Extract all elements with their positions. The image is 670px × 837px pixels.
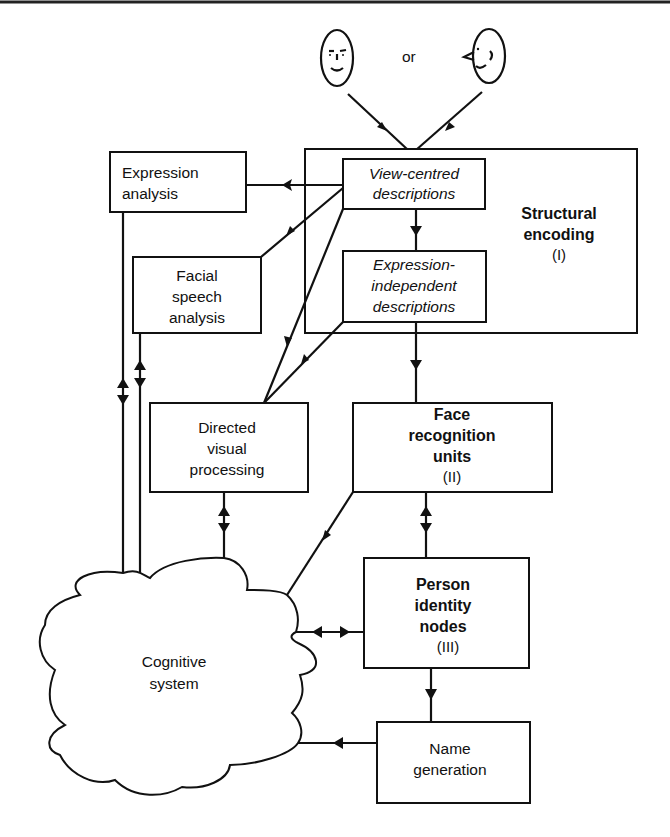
fru-line-1: Face: [434, 406, 471, 423]
pin-numeral: (III): [437, 638, 460, 655]
fru-line-2: recognition: [408, 427, 495, 444]
expression-independent-line-3: descriptions: [373, 298, 456, 315]
name-generation-box: Name generation: [377, 722, 530, 803]
person-identity-nodes-box: Person identity nodes (III): [364, 558, 529, 668]
view-centred-line-1: View-centred: [369, 165, 461, 182]
arrow-name-generation-to-cognitive: [298, 737, 377, 749]
arrow-pin-to-name-generation: [425, 668, 437, 722]
structural-encoding-title-1: Structural: [521, 205, 597, 222]
arrow-exprindep-to-fru: [410, 322, 422, 403]
arrow-fru-to-cognitive: [287, 492, 353, 595]
pin-line-1: Person: [416, 576, 470, 593]
expression-independent-descriptions-box: Expression- independent descriptions: [343, 251, 486, 322]
input-arrows: [348, 92, 482, 150]
facial-speech-analysis-box: Facial speech analysis: [133, 257, 261, 333]
arrow-fru-to-pin: [420, 492, 432, 558]
structural-encoding-numeral: (I): [552, 246, 566, 263]
cognitive-system-cloud: Cognitive system: [40, 558, 316, 795]
face-recognition-model-diagram: or Structural encoding (I) View-centred …: [0, 0, 670, 837]
directed-visual-line-3: processing: [190, 461, 265, 478]
directed-visual-processing-box: Directed visual processing: [150, 403, 308, 492]
cognitive-system-line-2: system: [149, 675, 198, 692]
structural-encoding-title-2: encoding: [523, 226, 594, 243]
frontal-face-icon: [321, 30, 353, 86]
view-centred-line-2: descriptions: [373, 185, 456, 202]
arrow-pin-to-cognitive: [296, 626, 364, 638]
facial-speech-line-1: Facial: [176, 267, 217, 284]
expression-independent-line-1: Expression-: [373, 256, 455, 273]
pin-line-3: nodes: [419, 618, 466, 635]
name-generation-line-2: generation: [413, 761, 486, 778]
profile-face-icon: [464, 29, 505, 83]
directed-visual-line-2: visual: [207, 440, 247, 457]
facial-speech-line-2: speech: [172, 288, 222, 305]
name-generation-line-1: Name: [429, 740, 470, 757]
fru-numeral: (II): [443, 468, 461, 485]
expression-independent-line-2: independent: [371, 277, 457, 294]
arrow-exprindep-to-directed-visual: [264, 322, 343, 403]
cognitive-system-line-1: Cognitive: [142, 653, 207, 670]
directed-visual-line-1: Directed: [198, 419, 256, 436]
arrow-facial-speech-to-cognitive: [134, 333, 146, 578]
expression-analysis-line-2: analysis: [122, 185, 178, 202]
pin-line-2: identity: [415, 597, 472, 614]
expression-analysis-line-1: Expression: [122, 164, 199, 181]
or-label: or: [402, 48, 416, 65]
facial-speech-line-3: analysis: [169, 309, 225, 326]
expression-analysis-box: Expression analysis: [110, 152, 246, 212]
arrow-directed-visual-to-cognitive: [218, 492, 230, 558]
face-recognition-units-box: Face recognition units (II): [353, 403, 552, 492]
view-centred-descriptions-box: View-centred descriptions: [343, 159, 485, 209]
fru-line-3: units: [433, 448, 471, 465]
arrow-expression-analysis-to-cognitive: [117, 212, 129, 575]
